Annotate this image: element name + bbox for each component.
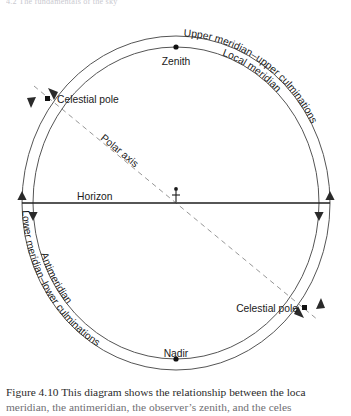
celestial-sphere-diagram: Zenith Nadir Horizon Celestial pole Cele… — [0, 14, 351, 380]
polar-axis-label: Polar axis — [99, 132, 141, 169]
caption-line-1: Figure 4.10 This diagram shows the relat… — [6, 385, 351, 400]
arrow-outer-right-down — [325, 191, 334, 200]
arrow-upper-left-inner — [27, 97, 36, 108]
zenith-dot-marker — [173, 44, 178, 49]
horizon-label: Horizon — [77, 191, 113, 202]
celestial-pole-lower-label: Celestial pole — [236, 303, 298, 314]
page-top-text-fragment: 4.2 The fundamentals of the sky — [6, 0, 266, 7]
arrow-outer-left-down — [17, 191, 26, 200]
zenith-label: Zenith — [162, 56, 191, 67]
observer-head — [174, 187, 178, 191]
upper-meridian-label: Upper meridian–upper culminations — [183, 27, 319, 125]
celestial-pole-lower-square-marker — [302, 305, 307, 310]
arrow-lower-right-inner — [316, 298, 325, 309]
celestial-pole-upper-label: Celestial pole — [57, 94, 119, 105]
figure-caption: Figure 4.10 This diagram shows the relat… — [6, 385, 351, 416]
nadir-label: Nadir — [164, 348, 189, 359]
observer-figure — [172, 187, 180, 202]
caption-line-2: meridian, the antimeridian, the observer… — [6, 400, 351, 415]
celestial-pole-upper-square-marker — [45, 96, 50, 101]
arrow-inner-right-up — [314, 212, 323, 221]
